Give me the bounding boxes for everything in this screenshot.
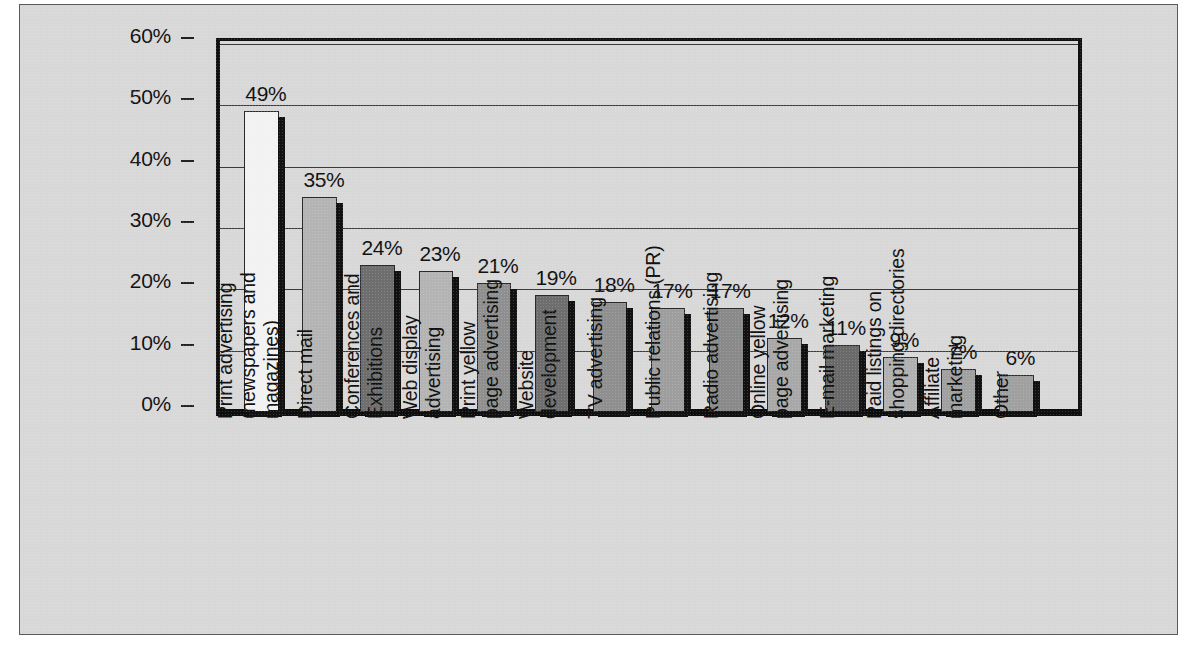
x-axis-category-label: Print yellow page advertising bbox=[457, 279, 503, 419]
y-axis-tick-label: 10% bbox=[93, 331, 171, 355]
bar-value-label: 49% bbox=[245, 82, 286, 106]
y-axis-tick-label: 40% bbox=[93, 147, 171, 171]
bar-value-label: 23% bbox=[419, 242, 460, 266]
x-axis-category-label: Other bbox=[990, 371, 1013, 419]
x-axis-category-label: Radio advertising bbox=[700, 272, 723, 419]
y-axis-tick-label: 50% bbox=[93, 85, 171, 109]
chart-page: 49%35%24%23%21%19%18%17%17%12%11%9%7%6% … bbox=[0, 0, 1201, 653]
x-axis-category-label: Public relations (PR) bbox=[642, 245, 665, 419]
y-axis-tick-mark bbox=[181, 405, 194, 407]
x-axis-category-label: TV advertising bbox=[584, 297, 607, 419]
y-axis-tick-mark bbox=[181, 37, 194, 39]
gridline bbox=[220, 167, 1078, 168]
y-axis-tick-label: 20% bbox=[93, 269, 171, 293]
x-axis-category-label: Web display advertising bbox=[399, 315, 445, 419]
y-axis-tick-mark bbox=[181, 221, 194, 223]
x-axis-category-label: Affiliate marketing bbox=[921, 335, 967, 419]
bar-value-label: 24% bbox=[361, 236, 402, 260]
gridline bbox=[220, 44, 1078, 45]
y-axis-tick-mark bbox=[181, 282, 194, 284]
scanned-chart-frame: 49%35%24%23%21%19%18%17%17%12%11%9%7%6% … bbox=[19, 4, 1178, 635]
gridline bbox=[220, 105, 1078, 106]
x-axis-category-label: Paid listings on shopping directories bbox=[863, 248, 909, 419]
x-axis-category-label: Print advertising (newspapers and magazi… bbox=[214, 272, 283, 419]
y-axis-tick-label: 0% bbox=[93, 392, 171, 416]
x-axis-category-label: Direct mail bbox=[294, 329, 317, 419]
y-axis-tick-mark bbox=[181, 160, 194, 162]
y-axis-tick-label: 30% bbox=[93, 208, 171, 232]
x-axis-category-label: E-mail marketing bbox=[816, 276, 839, 419]
x-axis-category-label: Website development bbox=[515, 310, 561, 419]
bar-value-label: 6% bbox=[1006, 346, 1036, 370]
y-axis-tick-label: 60% bbox=[93, 24, 171, 48]
x-axis-category-label: Online yellow page advertising bbox=[747, 279, 793, 419]
y-axis-tick-mark bbox=[181, 98, 194, 100]
y-axis-tick-mark bbox=[181, 344, 194, 346]
gridline bbox=[220, 228, 1078, 229]
bar-value-label: 18% bbox=[594, 273, 635, 297]
bar-value-label: 21% bbox=[478, 254, 519, 278]
bar-value-label: 35% bbox=[303, 168, 344, 192]
x-axis-category-label: Conferences and Exhibitions bbox=[341, 273, 387, 419]
bar-value-label: 19% bbox=[536, 266, 577, 290]
